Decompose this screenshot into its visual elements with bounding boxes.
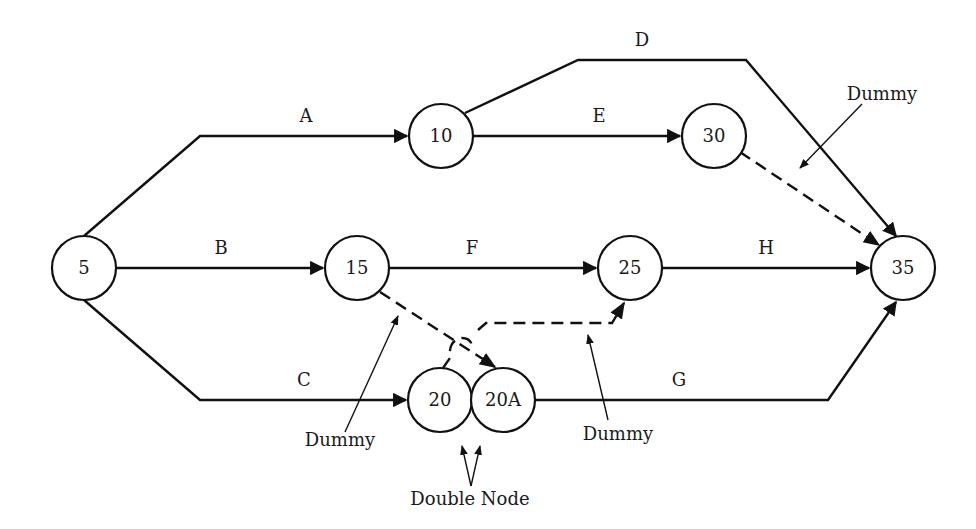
dummy-20-25: [443, 303, 624, 368]
activity-c-label: C: [297, 369, 311, 390]
annotation-dummy-top-label: Dummy: [847, 83, 918, 104]
node-25: 25: [598, 236, 662, 300]
node-35: 35: [871, 236, 935, 300]
activity-h-label: H: [758, 237, 774, 258]
annotation-dummy-right: Dummy: [583, 335, 654, 444]
node-20a: 20A: [471, 368, 535, 432]
annotation-double-node-label: Double Node: [410, 488, 529, 509]
node-25-label: 25: [619, 257, 642, 278]
annotation-dummy-top: Dummy: [800, 83, 918, 168]
node-5: 5: [52, 236, 116, 300]
node-30-label: 30: [703, 125, 726, 146]
activity-b: B: [116, 237, 323, 268]
node-10: 10: [409, 104, 473, 168]
network-diagram: A B C D E F H G 5: [0, 0, 976, 529]
activity-f: F: [389, 237, 596, 268]
activity-h: H: [662, 237, 869, 268]
activity-a: A: [84, 105, 407, 236]
activity-e-label: E: [592, 105, 605, 126]
node-20: 20: [408, 368, 472, 432]
node-20a-label: 20A: [485, 389, 522, 410]
activity-d: D: [465, 29, 896, 236]
activity-f-label: F: [466, 237, 479, 258]
activity-g-label: G: [672, 369, 686, 390]
activity-g: G: [535, 302, 896, 400]
node-30: 30: [682, 104, 746, 168]
node-15: 15: [325, 236, 389, 300]
node-15-label: 15: [346, 257, 369, 278]
node-5-label: 5: [78, 257, 89, 278]
dummy-30-35: [740, 152, 879, 245]
annotation-dummy-left-label: Dummy: [305, 429, 376, 450]
annotation-dummy-left: Dummy: [305, 316, 398, 450]
node-20-label: 20: [429, 389, 452, 410]
activity-c: C: [84, 300, 406, 400]
activity-e: E: [473, 105, 680, 136]
activity-d-label: D: [635, 29, 649, 50]
annotation-dummy-right-label: Dummy: [583, 423, 654, 444]
activity-b-label: B: [214, 237, 227, 258]
node-10-label: 10: [430, 125, 453, 146]
node-35-label: 35: [892, 257, 915, 278]
activity-a-label: A: [299, 105, 314, 126]
annotation-double-node: Double Node: [410, 446, 529, 509]
